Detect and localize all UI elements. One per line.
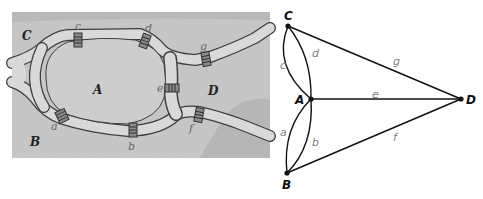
edge-b xyxy=(287,99,311,173)
edge-label-c: c xyxy=(280,59,286,72)
konigsberg-figure: C A B D a b c d e f g C A B D a b c d e … xyxy=(0,0,483,199)
region-label-a: A xyxy=(92,83,102,97)
node-label-c: C xyxy=(284,9,293,23)
bridge-label-e: e xyxy=(157,82,164,95)
node-c xyxy=(285,23,290,28)
edge-label-a: a xyxy=(280,126,287,139)
bridge-b-icon xyxy=(129,123,137,137)
bridge-f-icon xyxy=(194,107,204,122)
edge-label-g: g xyxy=(393,55,400,68)
edge-label-e: e xyxy=(372,88,379,101)
bridge-c-icon xyxy=(74,33,82,47)
bridge-g-icon xyxy=(201,51,211,66)
node-label-a: A xyxy=(294,93,304,107)
bridge-label-b: b xyxy=(128,140,135,153)
node-label-d: D xyxy=(466,93,476,107)
region-label-b: B xyxy=(29,135,40,149)
region-label-c: C xyxy=(22,29,32,43)
bridge-label-c: c xyxy=(75,20,81,33)
edge-label-b: b xyxy=(312,136,319,149)
node-a xyxy=(308,96,313,101)
bridge-label-d: d xyxy=(145,22,152,35)
bridge-e-icon xyxy=(165,84,179,92)
bridge-label-a: a xyxy=(51,120,58,133)
edge-label-f: f xyxy=(393,131,399,144)
bridges-map: C A B D a b c d e f g xyxy=(12,12,270,158)
edge-label-d: d xyxy=(312,47,320,60)
node-d xyxy=(458,96,463,101)
node-b xyxy=(284,170,289,175)
region-label-d: D xyxy=(207,84,219,98)
bridge-label-g: g xyxy=(200,40,207,53)
node-label-b: B xyxy=(282,178,291,192)
